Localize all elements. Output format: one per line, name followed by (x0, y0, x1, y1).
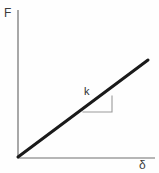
stiffness-line (18, 60, 148, 157)
y-axis-label: F (4, 7, 11, 19)
x-axis-label: δ (139, 159, 146, 171)
force-deflection-chart: F δ k (0, 0, 159, 173)
slope-label: k (84, 86, 90, 97)
plot-canvas (0, 0, 159, 173)
